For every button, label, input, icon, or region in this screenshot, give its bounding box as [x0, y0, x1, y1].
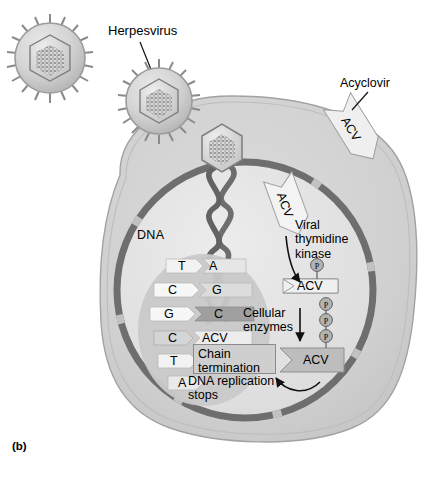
label-viral-thymidine-kinase: Viral thymidine kinase	[295, 218, 349, 261]
base-letter: C	[168, 283, 177, 297]
label-cellular-enzymes: Cellular enzymes	[243, 306, 293, 335]
label-dna-replication-stops: DNA replication stops	[188, 374, 274, 403]
biology-diagram-svg: P P P P	[0, 0, 427, 477]
virion-free	[7, 14, 93, 103]
base-letter: A	[209, 259, 217, 273]
base-letter: G	[212, 283, 222, 297]
acv-label-triphosphate: ACV	[303, 353, 329, 367]
base-letter: C	[168, 331, 177, 345]
svg-text:P: P	[324, 301, 329, 310]
base-letter: G	[164, 307, 174, 321]
base-letter-acv: ACV	[202, 331, 228, 345]
svg-text:P: P	[324, 317, 329, 326]
label-chain-termination: Chain termination	[193, 344, 276, 374]
label-acyclovir: Acyclovir	[340, 76, 390, 90]
leader-line-herpesvirus	[140, 42, 152, 72]
label-herpesvirus: Herpesvirus	[108, 24, 177, 39]
base-letter: T	[178, 259, 186, 273]
acv-label-monophosphate: ACV	[297, 279, 323, 293]
base-letter: A	[178, 376, 186, 390]
base-letter: C	[214, 307, 223, 321]
base-letter: T	[170, 354, 178, 368]
svg-text:P: P	[324, 333, 329, 342]
phosphate-group-tri: P P P	[320, 298, 333, 348]
svg-text:P: P	[315, 262, 320, 271]
figure-canvas: P P P P	[0, 0, 427, 477]
panel-label: (b)	[12, 440, 27, 453]
label-dna: DNA	[137, 228, 164, 242]
